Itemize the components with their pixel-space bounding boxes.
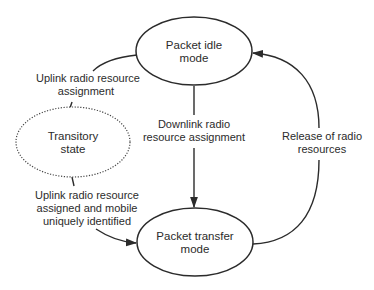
arrow-icon	[96, 229, 136, 243]
edge-line	[93, 55, 137, 71]
ellipse-shape	[136, 17, 252, 85]
edge-downlink-assignment: Downlink radio resource assignment	[143, 86, 245, 207]
ellipse-shape	[137, 208, 253, 276]
edge-line	[72, 177, 74, 186]
ellipse-shape-dotted	[16, 107, 130, 177]
edge-line	[253, 160, 319, 244]
edge-release: Release of radio resources	[253, 53, 362, 244]
node-label: Transitory	[48, 130, 99, 142]
node-packet-idle-mode: Packet idle mode	[136, 17, 252, 85]
state-diagram: Uplink radio resource assignment Uplink …	[0, 0, 374, 290]
edge-uplink-assigned: Uplink radio resource assigned and mobil…	[35, 177, 139, 243]
node-label: Packet transfer	[156, 230, 234, 242]
edge-uplink-assignment: Uplink radio resource assignment	[36, 55, 140, 108]
edge-label: resources	[298, 143, 347, 155]
node-transitory-state: Transitory state	[16, 107, 130, 177]
edge-label: assigned and mobile	[37, 202, 138, 214]
arrow-icon	[253, 53, 319, 128]
edge-label: uniquely identified	[43, 215, 131, 227]
edge-label: Uplink radio resource	[36, 72, 140, 84]
edge-label: assignment	[58, 85, 114, 97]
edge-label: Downlink radio	[158, 118, 230, 130]
node-label: state	[61, 143, 86, 155]
edge-label: Release of radio	[282, 130, 362, 142]
node-label: mode	[180, 52, 209, 64]
edge-label: Uplink radio resource	[35, 189, 139, 201]
node-label: Packet idle	[166, 39, 222, 51]
edge-label: resource assignment	[143, 131, 245, 143]
node-packet-transfer-mode: Packet transfer mode	[137, 208, 253, 276]
node-label: mode	[181, 243, 210, 255]
